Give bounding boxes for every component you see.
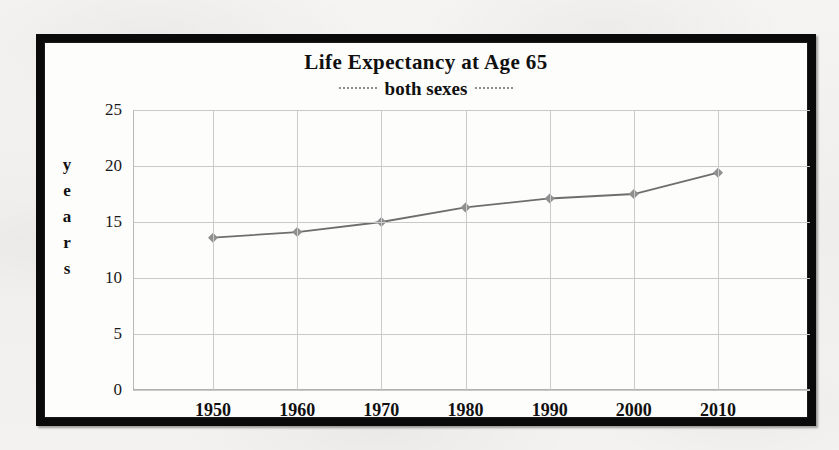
x-axis-tick-label: 1970 — [363, 400, 399, 421]
y-axis-title-letter: y — [58, 152, 76, 178]
y-gridline — [133, 334, 810, 335]
y-axis-tick-label: 15 — [105, 212, 122, 232]
legend-dash-right-icon — [475, 87, 513, 89]
x-gridline — [718, 110, 719, 390]
x-axis-tick-label: 2010 — [700, 400, 736, 421]
x-gridline — [381, 110, 382, 390]
y-axis-tick-label: 25 — [105, 100, 122, 120]
y-gridline — [133, 110, 810, 111]
y-axis-title-letter: r — [58, 230, 76, 256]
y-gridline — [133, 222, 810, 223]
x-gridline — [466, 110, 467, 390]
x-axis-tick-label: 1980 — [448, 400, 484, 421]
y-axis-title-letter: e — [58, 178, 76, 204]
plot-area: 05101520251950196019701980199020002010 — [133, 110, 810, 390]
x-gridline — [213, 110, 214, 390]
y-gridline — [133, 390, 810, 391]
x-axis-tick-label: 1990 — [532, 400, 568, 421]
x-axis-tick-label: 2000 — [616, 400, 652, 421]
x-axis-tick-label: 1960 — [279, 400, 315, 421]
legend-label: both sexes — [385, 78, 468, 99]
y-axis-tick-label: 5 — [114, 324, 123, 344]
x-gridline — [297, 110, 298, 390]
y-axis-tick-label: 20 — [105, 156, 122, 176]
x-gridline — [634, 110, 635, 390]
legend-dash-left-icon — [339, 87, 377, 89]
y-axis-title-letter: a — [58, 204, 76, 230]
series-line-both-sexes — [133, 110, 810, 390]
chart-title: Life Expectancy at Age 65 — [44, 50, 808, 75]
y-gridline — [133, 166, 810, 167]
x-gridline — [550, 110, 551, 390]
chart-legend: both sexes — [44, 78, 808, 100]
x-axis-tick-label: 1950 — [195, 400, 231, 421]
y-axis-title: years — [58, 152, 76, 282]
chart-canvas: Life Expectancy at Age 65 both sexes yea… — [44, 42, 808, 418]
y-gridline — [133, 278, 810, 279]
y-axis-tick-label: 10 — [105, 268, 122, 288]
y-axis-tick-label: 0 — [114, 380, 123, 400]
y-axis-title-letter: s — [58, 256, 76, 282]
